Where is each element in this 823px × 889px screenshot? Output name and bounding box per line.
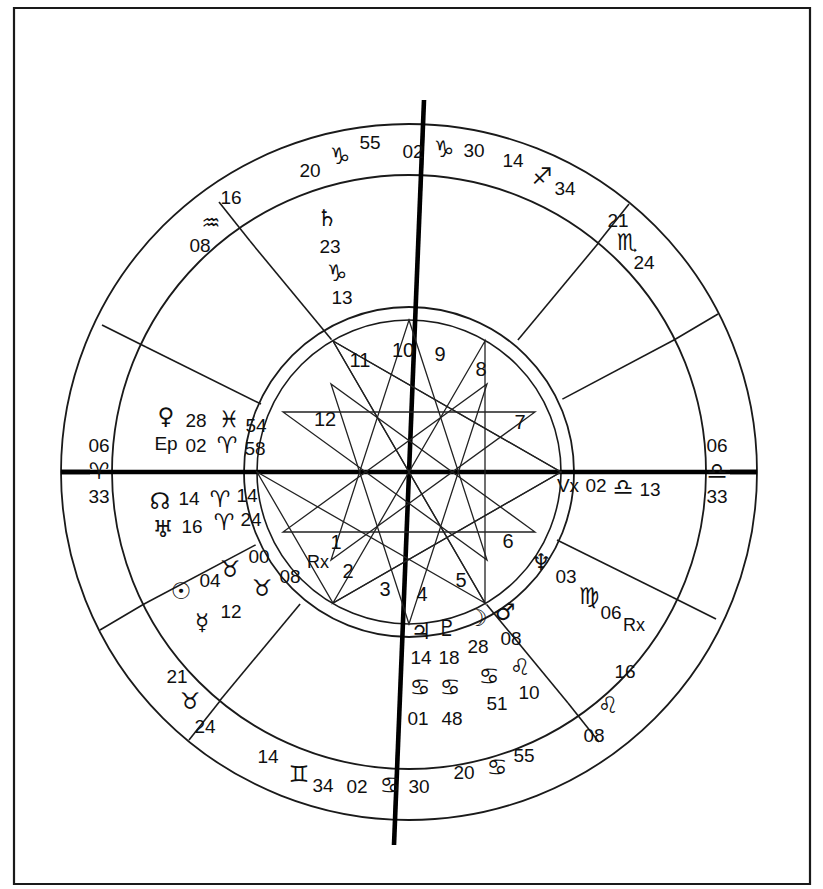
dsc-degree: 06 — [706, 435, 727, 456]
placement-chiron: ♉ 00 ♉ 08 Rx — [220, 546, 329, 600]
jupiter-sign-glyph: ♋ — [410, 674, 431, 700]
cusp-11-sign-glyph: ♑ — [330, 143, 351, 169]
uranus-glyph: ♅ — [153, 516, 174, 542]
mars-degree: 08 — [500, 628, 521, 649]
moon-degree: 28 — [467, 636, 488, 657]
cusp-label-2: 21 ♉ 24 — [166, 666, 216, 737]
band-tick-12 — [102, 325, 146, 347]
cusp-2-minute: 24 — [194, 716, 216, 737]
cusp-6-sign-glyph: ♌ — [598, 692, 619, 718]
cusp-5-minute: 55 — [513, 745, 534, 766]
cusp-label-10-mc: 02 ♑ 30 — [402, 136, 484, 163]
cusp-3-minute: 34 — [312, 775, 334, 796]
band-tick-6 — [672, 597, 716, 619]
asc-minute: 33 — [88, 486, 109, 507]
house-number-7: 7 — [514, 411, 525, 433]
placement-saturn: ♄ 23 ♑ 13 — [317, 205, 353, 309]
uranus-sign-glyph: ♈ — [214, 509, 235, 535]
cusp-6-minute: 08 — [583, 725, 604, 746]
cusp-12-sign-glyph: ♒ — [202, 211, 221, 235]
neptune-degree: 03 — [555, 566, 576, 587]
saturn-sign-glyph: ♑ — [327, 260, 348, 286]
cusp-6-degree: 16 — [614, 661, 635, 682]
cusp-3-sign-glyph: ♊ — [289, 761, 310, 787]
uranus-degree: 16 — [181, 516, 202, 537]
placement-venus: ♀ 28 ♓ 54 — [158, 403, 267, 437]
cusp-line-8 — [562, 340, 674, 399]
mars-minute: 10 — [518, 682, 539, 703]
house-number-4: 4 — [416, 583, 427, 605]
mercury-glyph: ☿ — [195, 609, 209, 635]
pluto-minute: 48 — [441, 708, 462, 729]
house-number-3: 3 — [379, 578, 390, 600]
mc-sign-glyph: ♑ — [434, 136, 455, 162]
cusp-label-4-ic: 02 ♋ 30 — [346, 772, 429, 798]
placement-mars: ♂ 08 ♌ 10 — [495, 599, 540, 704]
natal-chart-wheel: 1 2 3 4 5 6 7 8 9 10 11 12 20 ♑ 55 02 ♑ … — [0, 0, 823, 889]
jupiter-degree: 14 — [410, 647, 432, 668]
band-tick-8 — [674, 314, 718, 340]
cusp-label-6: 16 ♌ 08 — [583, 661, 635, 746]
cusp-9-minute: 34 — [554, 178, 576, 199]
house-number-1: 1 — [330, 531, 341, 553]
jupiter-glyph: ♃ — [411, 618, 432, 644]
vertex-sign-glyph: ♎ — [613, 474, 634, 500]
chiron-minute: 08 — [279, 566, 300, 587]
chiron-retrograde-marker: Rx — [307, 552, 329, 572]
house-number-5: 5 — [455, 569, 466, 591]
venus-minute: 54 — [245, 415, 267, 436]
pluto-sign-glyph: ♋ — [440, 674, 461, 700]
cusp-9-degree: 14 — [502, 150, 524, 171]
vertex-degree: 02 — [585, 475, 606, 496]
cusp-2-sign-glyph: ♉ — [180, 688, 201, 714]
east-point-sign-glyph: ♈ — [217, 432, 238, 458]
saturn-glyph: ♄ — [317, 205, 338, 231]
cusp-11-minute: 55 — [359, 132, 380, 153]
cusp-9-sign-glyph: ♐ — [532, 163, 553, 189]
cusp-2-degree: 21 — [166, 666, 187, 687]
cusp-label-1-asc: 06 ♈ 33 — [88, 435, 109, 507]
cusp-label-3: 14 ♊ 34 — [257, 746, 334, 796]
jupiter-minute: 01 — [407, 708, 428, 729]
north-node-minute: 14 — [236, 485, 258, 506]
cusp-line-12 — [146, 347, 261, 404]
east-point-glyph: Ep — [154, 433, 177, 454]
mars-glyph: ♂ — [495, 599, 516, 625]
neptune-retrograde-marker: Rx — [623, 615, 645, 635]
house-number-10: 10 — [392, 339, 414, 361]
dsc-minute: 33 — [706, 486, 727, 507]
vertex-glyph: Vx — [557, 475, 580, 496]
house-number-12: 12 — [314, 408, 336, 430]
placement-jupiter-pluto: ♃ ♇ 14 18 ♋ ♋ 01 48 — [407, 615, 462, 730]
chiron-sign-glyph: ♉ — [252, 575, 273, 601]
venus-degree: 28 — [185, 410, 206, 431]
cusp-5-degree: 20 — [453, 762, 474, 783]
cusp-11-degree: 20 — [299, 160, 320, 181]
uranus-minute: 24 — [240, 509, 262, 530]
placement-neptune: ♆ 03 ♍ 06 Rx — [531, 549, 645, 635]
house-number-2: 2 — [342, 560, 353, 582]
cusp-label-9: 14 ♐ 34 — [502, 150, 576, 199]
cusp-3-degree: 14 — [257, 746, 279, 767]
east-point-degree: 02 — [185, 435, 206, 456]
cusp-label-11: 20 ♑ 55 — [299, 132, 380, 181]
moon-sign-glyph: ♋ — [479, 663, 500, 689]
house-number-11: 11 — [350, 349, 371, 371]
cusp-5-sign-glyph: ♋ — [487, 754, 508, 780]
neptune-minute: 06 — [600, 602, 621, 623]
dsc-sign-glyph: ♎ — [707, 458, 728, 484]
chiron-glyph: ♉ — [220, 556, 241, 582]
cusp-label-5: 20 ♋ 55 — [453, 745, 534, 783]
saturn-minute: 13 — [331, 287, 352, 308]
pluto-degree: 18 — [438, 647, 459, 668]
band-tick-2 — [100, 604, 144, 630]
house-number-6: 6 — [502, 530, 513, 552]
cusp-12-minute: 08 — [189, 235, 210, 256]
venus-sign-glyph: ♓ — [219, 406, 240, 432]
mars-sign-glyph: ♌ — [510, 654, 531, 680]
placement-mercury: ☿ 12 — [195, 601, 242, 634]
sun-glyph: ☉ — [171, 578, 192, 604]
sun-degree: 04 — [199, 570, 221, 591]
vertex-minute: 13 — [639, 479, 660, 500]
placement-sun: ☉ 04 — [171, 570, 221, 603]
